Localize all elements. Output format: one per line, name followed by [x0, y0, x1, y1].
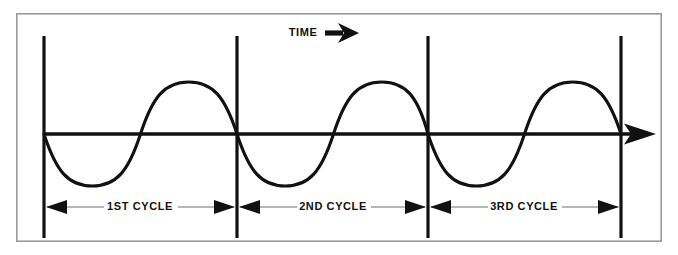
cycle-label-3: 3RD CYCLE — [490, 200, 558, 212]
sine-wave-cycles-figure: TIME 1ST CYCLE 2ND CYCLE 3RD CYCLE — [0, 0, 678, 255]
cycle-label-2: 2ND CYCLE — [299, 200, 367, 212]
time-axis-label: TIME — [289, 26, 318, 38]
diagram-canvas: TIME 1ST CYCLE 2ND CYCLE 3RD CYCLE — [0, 0, 678, 255]
cycle-label-1: 1ST CYCLE — [107, 200, 173, 212]
